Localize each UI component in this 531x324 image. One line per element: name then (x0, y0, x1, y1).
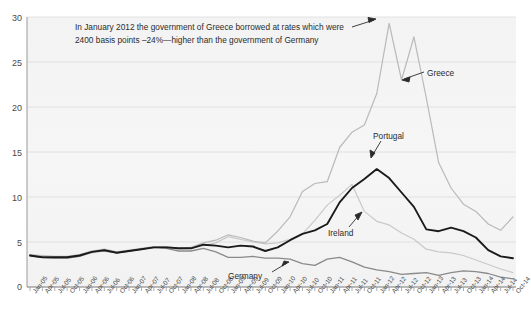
annotation-text: In January 2012 the government of Greece… (75, 21, 344, 47)
y-tick-30: 30 (0, 13, 22, 23)
y-tick-20: 20 (0, 103, 22, 113)
y-tick-25: 25 (0, 58, 22, 68)
series-label-ireland: Ireland (328, 228, 353, 238)
series-label-greece: Greece (427, 68, 454, 78)
y-tick-0: 0 (0, 282, 22, 292)
y-tick-10: 10 (0, 193, 22, 203)
annotation-line-1: In January 2012 the government of Greece… (75, 21, 344, 34)
annotation-line-2: 2400 basis points –24%—higher than the g… (75, 34, 344, 47)
x-axis: Jan-05Apr-05Jul-05Oct-05Jan-06Apr-06Jul-… (27, 288, 516, 324)
plot-area (27, 17, 516, 287)
chart-svg (27, 17, 516, 287)
series-line-portugal (30, 169, 513, 258)
series-label-portugal: Portugal (373, 131, 404, 141)
y-tick-5: 5 (0, 238, 22, 248)
y-tick-15: 15 (0, 148, 22, 158)
x-tick-label-oct-14: Oct-14 (514, 275, 531, 294)
gridlines (27, 17, 516, 242)
series-line-greece (30, 23, 513, 256)
series-line-ireland (30, 184, 513, 272)
series-label-germany: Germany (228, 271, 262, 281)
